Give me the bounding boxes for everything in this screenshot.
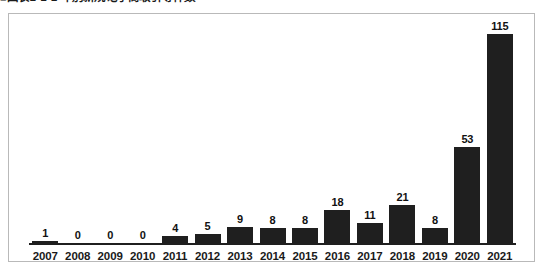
- bar-value-label: 5: [205, 220, 211, 232]
- x-axis-tick-label: 2014: [256, 246, 288, 262]
- bar-group: 21: [386, 20, 418, 243]
- x-axis-tick-label: 2009: [94, 246, 126, 262]
- bar: [227, 227, 253, 243]
- x-axis-tick-label: 2018: [386, 246, 418, 262]
- bar-value-label: 0: [75, 229, 81, 241]
- bar-value-label: 11: [364, 209, 375, 221]
- x-axis-tick-label: 2008: [61, 246, 93, 262]
- x-axis-tick-label: 2020: [451, 246, 483, 262]
- bar-value-label: 115: [491, 20, 508, 32]
- x-axis-tick-label: 2016: [321, 246, 353, 262]
- x-axis-tick-label: 2019: [419, 246, 451, 262]
- x-axis-tick-labels: 2007200820092010201120122013201420152016…: [29, 246, 516, 262]
- bar-group: 0: [126, 20, 158, 243]
- bar-group: 53: [451, 20, 483, 243]
- bar: [454, 147, 480, 243]
- x-axis-tick-label: 2010: [126, 246, 158, 262]
- bar: [195, 234, 221, 243]
- x-axis-tick-label: 2011: [159, 246, 191, 262]
- bar: [260, 228, 286, 243]
- bar: [292, 228, 318, 243]
- bar-group: 1: [29, 20, 61, 243]
- bar: [162, 236, 188, 243]
- x-axis-tick-label: 2007: [29, 246, 61, 262]
- chart-frame: 100045988181121853115 200720082009201020…: [8, 13, 535, 262]
- bar: [389, 205, 415, 243]
- bar-value-label: 8: [302, 214, 308, 226]
- x-axis-tick-label: 2015: [289, 246, 321, 262]
- bar-group: 11: [354, 20, 386, 243]
- bar-group: 18: [321, 20, 353, 243]
- x-axis-tick-label: 2012: [191, 246, 223, 262]
- bar-value-label: 0: [107, 229, 113, 241]
- bar-group: 9: [224, 20, 256, 243]
- bar: [357, 223, 383, 243]
- bar-group: 5: [191, 20, 223, 243]
- x-axis-tick-label: 2017: [354, 246, 386, 262]
- bar-group: 8: [289, 20, 321, 243]
- x-axis-line: [29, 243, 516, 245]
- bar-group: 0: [94, 20, 126, 243]
- bar: [422, 228, 448, 243]
- bar-group: 4: [159, 20, 191, 243]
- plot-area: 100045988181121853115 200720082009201020…: [19, 20, 524, 261]
- bar-value-label: 8: [432, 214, 438, 226]
- bar-value-label: 18: [332, 196, 344, 208]
- x-axis-tick-label: 2013: [224, 246, 256, 262]
- bar: [487, 34, 513, 243]
- bar-group: 8: [256, 20, 288, 243]
- figure-caption: ■図表1-1-1 年別新規電子商取引等件数: [0, 0, 300, 5]
- bar-value-label: 9: [237, 213, 243, 225]
- bar-series: 100045988181121853115: [29, 20, 516, 243]
- bar-value-label: 0: [140, 229, 146, 241]
- bar-value-label: 53: [461, 133, 473, 145]
- x-axis-tick-label: 2021: [484, 246, 516, 262]
- bar-group: 115: [484, 20, 516, 243]
- bar-group: 0: [61, 20, 93, 243]
- bar-value-label: 1: [42, 227, 48, 239]
- bar-value-label: 21: [396, 191, 408, 203]
- bar: [324, 210, 350, 243]
- bar-group: 8: [419, 20, 451, 243]
- bar-value-label: 8: [270, 214, 276, 226]
- bar-value-label: 4: [172, 222, 178, 234]
